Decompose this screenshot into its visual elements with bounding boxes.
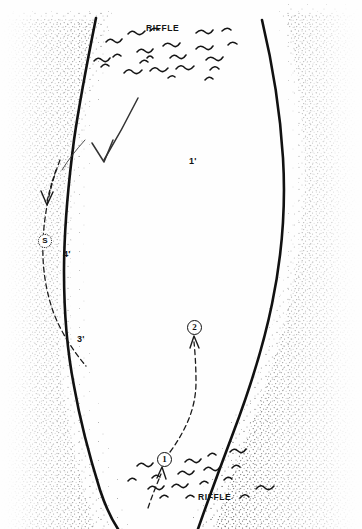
- marker-position-one[interactable]: 1: [157, 452, 172, 467]
- stream-diagram-figure: RIFFLE RIFFLE 1' 4' 3' S 2 1: [0, 0, 362, 529]
- marker-structure-s-label: S: [42, 237, 47, 245]
- marker-position-one-label: 1: [162, 455, 167, 464]
- riffle-label-bottom: RIFFLE: [198, 492, 231, 502]
- approach-path: [170, 336, 199, 452]
- marker-position-two-label: 2: [192, 323, 197, 332]
- flow-arrow: [92, 98, 138, 162]
- depth-label-right: 1': [189, 156, 197, 166]
- marker-structure-s[interactable]: S: [38, 234, 52, 248]
- depth-label-mid-left: 4': [63, 249, 71, 259]
- riffle-ticks-top: [94, 28, 237, 80]
- diagram-canvas: [0, 0, 362, 529]
- depth-label-lower-left: 3': [77, 334, 85, 344]
- marker-position-two[interactable]: 2: [187, 320, 202, 335]
- riffle-label-top: RIFFLE: [146, 23, 179, 33]
